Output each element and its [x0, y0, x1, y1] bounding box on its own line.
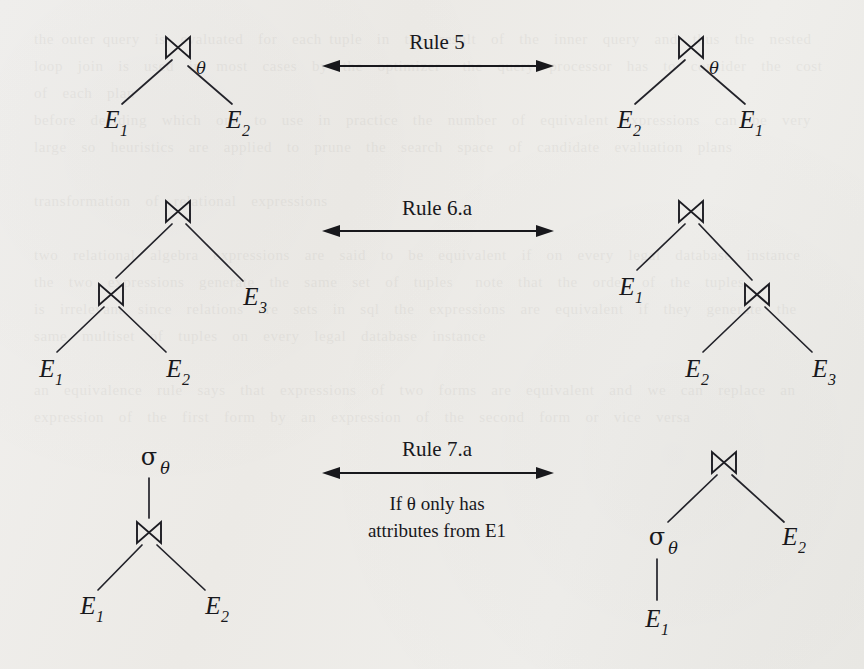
tree-edge	[701, 66, 745, 104]
rule-7a-condition-line-1: If θ only has	[389, 493, 484, 514]
double-arrow-icon-rule-6a	[322, 225, 554, 237]
join-icon	[99, 284, 123, 305]
theta-subscript-label: θ	[160, 459, 170, 478]
leaf-label: E	[103, 106, 119, 133]
leaf-label: E	[811, 355, 827, 382]
leaf-label: E	[618, 273, 634, 300]
rule-7a-left-tree: σ θ E 1 E 2	[79, 443, 229, 625]
leaf-label: E	[781, 523, 797, 550]
join-icon	[679, 37, 703, 58]
rule-5-left-tree: θ E 1 E 2	[103, 37, 250, 139]
rule-6a-left-tree: E 1 E 2 E 3	[38, 201, 267, 388]
equivalence-rules-diagram: θ E 1 E 2 Rule 5	[0, 0, 864, 669]
leaf-label: E	[738, 106, 754, 133]
rule-label-rule-5: Rule 5	[409, 30, 464, 54]
leaf-label: E	[616, 106, 632, 133]
leaf-subscript: 1	[755, 122, 763, 139]
double-arrow-icon-rule-5	[322, 60, 554, 72]
leaf-subscript: 2	[701, 371, 709, 388]
join-icon	[712, 452, 736, 473]
rule-label-rule-7a: Rule 7.a	[402, 437, 473, 461]
join-icon	[166, 201, 190, 222]
rule-7a-condition-line-2: attributes from E1	[368, 520, 506, 541]
page-canvas: the outer query is evaluated for each tu…	[0, 0, 864, 669]
sigma-symbol-label: σ	[141, 443, 157, 471]
leaf-node-E1: E 1	[79, 592, 104, 625]
leaf-node-E2: E 2	[204, 592, 229, 625]
leaf-node-E2: E 2	[165, 355, 190, 388]
theta-subscript-label: θ	[668, 539, 678, 558]
select-sigma-node: σ θ	[649, 523, 678, 558]
leaf-label: E	[79, 592, 95, 619]
select-sigma-node: σ θ	[141, 443, 170, 478]
tree-edge	[699, 224, 752, 280]
leaf-subscript: 2	[798, 539, 806, 556]
leaf-subscript: 1	[661, 621, 669, 638]
leaf-node-E1: E 1	[618, 273, 643, 306]
tree-edge	[186, 224, 243, 281]
join-icon	[137, 522, 161, 543]
join-icon	[679, 201, 703, 222]
double-arrow-icon-rule-7a	[322, 467, 554, 479]
leaf-subscript: 2	[242, 122, 250, 139]
sigma-symbol-label: σ	[649, 523, 665, 551]
row-rule-5: θ E 1 E 2 Rule 5	[103, 30, 763, 139]
tree-edge	[98, 545, 142, 590]
leaf-node-E1: E 1	[103, 106, 128, 139]
tree-edge	[765, 307, 812, 352]
leaf-label: E	[242, 283, 258, 310]
leaf-node-E3: E 3	[811, 355, 836, 388]
leaf-node-E2: E 2	[616, 106, 641, 139]
row-rule-7a: σ θ E 1 E 2 Rule 7.a	[79, 437, 806, 638]
leaf-node-E1: E 1	[644, 605, 669, 638]
rule-7a-right-tree: σ θ E 1 E 2	[644, 452, 806, 638]
leaf-subscript: 2	[633, 122, 641, 139]
tree-edge	[635, 60, 685, 104]
tree-edge	[188, 66, 232, 104]
leaf-subscript: 3	[258, 299, 267, 316]
leaf-label: E	[225, 106, 241, 133]
tree-edge	[157, 545, 205, 590]
leaf-subscript: 1	[55, 371, 63, 388]
leaf-subscript: 3	[827, 371, 836, 388]
tree-edge	[732, 475, 784, 522]
leaf-subscript: 2	[221, 608, 229, 625]
tree-edge	[122, 60, 172, 104]
leaf-node-E2: E 2	[225, 106, 250, 139]
tree-edge	[119, 307, 166, 352]
leaf-node-E2: E 2	[781, 523, 806, 556]
leaf-label: E	[684, 355, 700, 382]
tree-edge	[57, 307, 104, 352]
leaf-subscript: 2	[182, 371, 190, 388]
leaf-node-E1: E 1	[738, 106, 763, 139]
tree-edge	[703, 307, 750, 352]
rule-label-rule-6a: Rule 6.a	[402, 196, 473, 220]
leaf-label: E	[165, 355, 181, 382]
join-icon	[166, 37, 190, 58]
leaf-subscript: 1	[96, 608, 104, 625]
rule-6a-right-tree: E 1 E 2 E 3	[618, 201, 836, 388]
leaf-label: E	[644, 605, 660, 632]
tree-edge	[116, 224, 172, 278]
row-rule-6a: E 1 E 2 E 3 Rule 6.a	[38, 196, 836, 388]
leaf-label: E	[38, 355, 54, 382]
leaf-subscript: 1	[635, 289, 643, 306]
leaf-subscript: 1	[120, 122, 128, 139]
leaf-node-E1: E 1	[38, 355, 63, 388]
tree-edge	[637, 224, 685, 270]
leaf-node-E2: E 2	[684, 355, 709, 388]
tree-edge	[668, 475, 717, 522]
join-icon	[745, 284, 769, 305]
leaf-node-E3: E 3	[242, 283, 267, 316]
rule-5-right-tree: θ E 2 E 1	[616, 37, 763, 139]
leaf-label: E	[204, 592, 220, 619]
